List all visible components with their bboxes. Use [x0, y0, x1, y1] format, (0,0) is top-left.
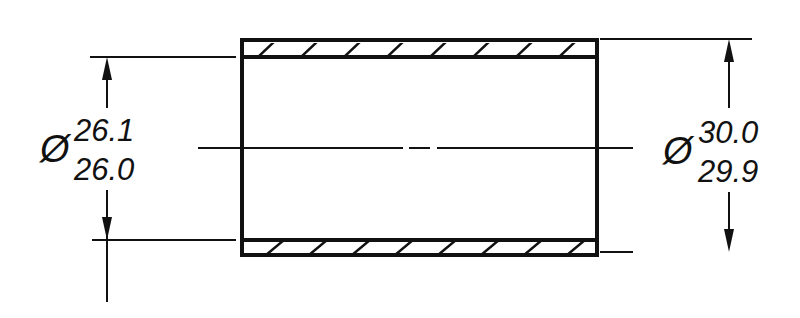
outer-diameter-lower: 29.9: [697, 154, 758, 189]
arrow-up-icon: [724, 39, 734, 62]
inner-diameter-lower: 26.0: [73, 152, 134, 187]
hatching-top: [258, 40, 577, 57]
bushing-drawing: Ø 26.1 26.0 Ø 30.0 29.9: [0, 0, 800, 318]
diameter-symbol: Ø: [661, 130, 695, 172]
arrow-down-icon: [102, 217, 112, 240]
arrow-down-icon: [724, 229, 734, 252]
arrow-up-icon: [102, 57, 112, 80]
extension-lines: [90, 39, 752, 252]
outer-diameter-label: Ø 30.0 29.9: [661, 115, 758, 189]
outer-diameter-upper: 30.0: [698, 115, 758, 150]
inner-diameter-upper: 26.1: [73, 113, 134, 148]
diameter-symbol: Ø: [38, 128, 72, 170]
inner-diameter-label: Ø 26.1 26.0: [38, 113, 134, 187]
hatching-bottom: [266, 240, 585, 255]
